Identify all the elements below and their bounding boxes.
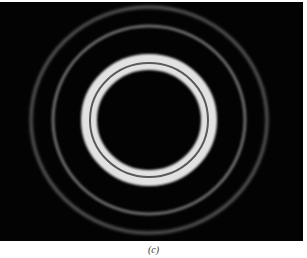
- panel-caption: (c): [0, 244, 307, 255]
- figure-panel: (c): [0, 0, 307, 258]
- diffraction-rings-graphic: [0, 2, 303, 241]
- inner-dark-gap: [90, 63, 208, 177]
- outer-faint-ring: [31, 7, 267, 233]
- diffraction-photo: [0, 2, 303, 241]
